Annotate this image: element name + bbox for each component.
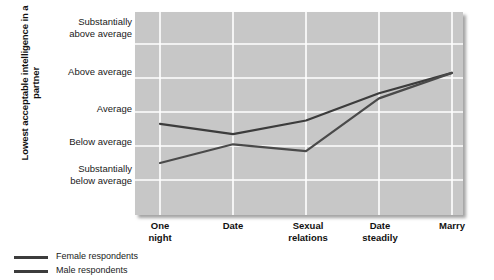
x-tick-line: night [120, 232, 200, 244]
y-tick-line: below average [36, 175, 132, 187]
x-tick-label: Date [193, 220, 273, 232]
legend-swatch-line [14, 270, 48, 273]
y-tick-line: Average [36, 103, 132, 115]
plot-area [135, 12, 463, 215]
x-tick-line: relations [268, 232, 348, 244]
x-tick-label: Sexual relations [268, 220, 348, 243]
legend-swatch-line [14, 256, 48, 259]
x-tick-line: Date [193, 220, 273, 232]
legend-label: Male respondents [56, 264, 128, 277]
legend-label: Female respondents [56, 250, 138, 263]
horizontal-gridlines [135, 44, 463, 180]
x-axis-tick-labels: One night Date Sexual relations Date ste… [135, 220, 463, 254]
y-tick-line: Below average [36, 136, 132, 148]
x-tick-label: Date steadily [340, 220, 420, 243]
y-tick-line: above average [36, 28, 132, 40]
chart-figure: Lowest acceptable intelligence in a part… [0, 0, 494, 280]
y-tick-line: Substantially [36, 163, 132, 175]
plot-svg [135, 12, 463, 215]
y-tick-label: Substantially above average [36, 16, 132, 39]
y-tick-label: Substantially below average [36, 163, 132, 186]
x-tick-line: steadily [340, 232, 420, 244]
x-tick-line: Date [340, 220, 420, 232]
x-tick-line: One [120, 220, 200, 232]
x-tick-label: One night [120, 220, 200, 243]
y-tick-label: Below average [36, 136, 132, 148]
y-tick-label: Average [36, 103, 132, 115]
x-tick-label: Marry [412, 220, 492, 232]
vertical-gridlines [160, 12, 452, 215]
x-tick-line: Marry [412, 220, 492, 232]
legend-item-female: Female respondents [14, 250, 264, 264]
y-axis-tick-labels: Substantially above average Above averag… [36, 0, 132, 220]
y-tick-line: Above average [36, 66, 132, 78]
legend-item-male: Male respondents [14, 264, 264, 278]
y-tick-label: Above average [36, 66, 132, 78]
x-tick-line: Sexual [268, 220, 348, 232]
chart-legend: Female respondents Male respondents [14, 250, 264, 278]
y-tick-line: Substantially [36, 16, 132, 28]
